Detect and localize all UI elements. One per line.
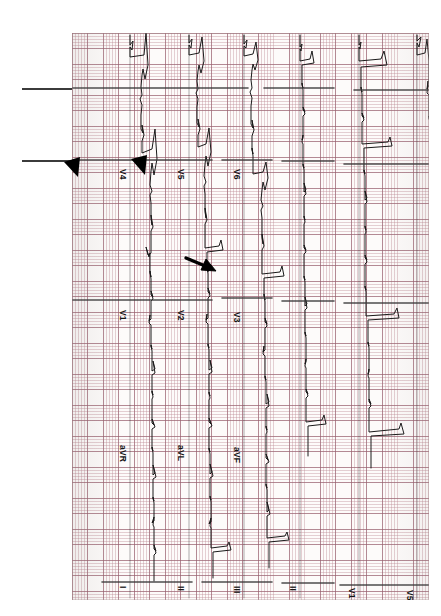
trace-column-6 xyxy=(417,35,429,494)
lead-label-avf: aVF xyxy=(233,447,242,463)
lead-label-v6: V6 xyxy=(233,169,242,180)
lead-label-v5: V5 xyxy=(177,169,186,180)
lead-label-v5-second: V5 xyxy=(406,590,415,600)
lead-label-v4: V4 xyxy=(119,169,128,180)
lead-label-avl: aVL xyxy=(177,445,186,461)
ecg-paper: V4 V5 V6 V1 V2 V3 aVR aVL aVF I II III I… xyxy=(72,33,429,600)
lead-label-v3: V3 xyxy=(233,312,242,323)
trace-column-1 xyxy=(130,33,157,581)
trace-column-2 xyxy=(189,35,231,578)
lead-label-v1-second: V1 xyxy=(348,588,357,599)
trace-column-5 xyxy=(359,35,404,468)
lead-label-i: I xyxy=(119,586,128,589)
lead-label-iii: III xyxy=(233,586,242,594)
trace-column-4 xyxy=(300,35,326,456)
ecg-screenshot: V4 V5 V6 V1 V2 V3 aVR aVL aVF I II III I… xyxy=(0,0,441,616)
lead-label-ii-rhythm: II xyxy=(289,586,298,591)
lead-label-v2: V2 xyxy=(177,310,186,321)
lead-label-v1: V1 xyxy=(119,310,128,321)
lead-label-avr: aVR xyxy=(119,445,128,462)
lead-label-ii: II xyxy=(177,586,186,591)
